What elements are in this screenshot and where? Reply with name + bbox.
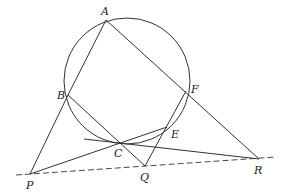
segment-p-e — [30, 127, 167, 174]
label-p: P — [25, 179, 34, 192]
segment-x-r — [84, 139, 259, 159]
label-r: R — [253, 164, 262, 177]
label-a: A — [100, 5, 109, 18]
segment-f-q — [145, 91, 186, 166]
label-b: B — [56, 89, 65, 102]
circumcircle — [64, 18, 190, 144]
segment-b-p — [30, 95, 68, 174]
segment-a-b — [68, 20, 106, 95]
label-f: F — [190, 83, 199, 96]
label-c: C — [114, 147, 123, 160]
segment-a-r — [106, 20, 259, 159]
label-q: Q — [140, 171, 149, 184]
segment-b-q — [68, 95, 145, 166]
geometry-figure: A B C E F P Q R — [0, 0, 288, 192]
label-e: E — [170, 128, 179, 141]
